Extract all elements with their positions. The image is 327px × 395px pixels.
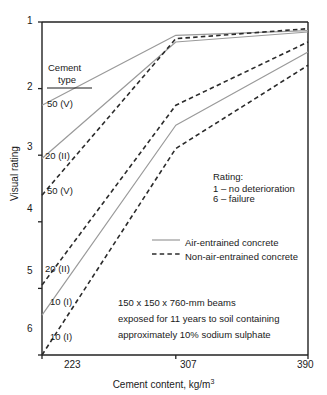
cement-type-heading-line1: Cement	[48, 62, 81, 74]
beam-note-line3: approximately 10% sodium sulphate	[118, 328, 271, 341]
series-label-10i-dashed: 10 (I)	[50, 331, 72, 343]
y-tick-label-4: 4	[27, 203, 33, 214]
y-axis-title: Visual rating	[9, 134, 20, 214]
y-tick-label-2: 2	[27, 81, 33, 92]
x-tick-label-307: 307	[180, 359, 197, 370]
y-tick-label-3: 3	[27, 141, 33, 152]
x-tick-label-390: 390	[297, 359, 314, 370]
legend-label-non-air-entrained: Non-air-entrained concrete	[185, 251, 298, 263]
y-tick-label-1: 1	[27, 15, 33, 26]
x-axis-title: Cement content, kg/m3	[0, 376, 327, 391]
x-tick-label-223: 223	[64, 359, 81, 370]
series-label-50v-dashed: 50 (V)	[47, 185, 73, 197]
beam-note-line1: 150 x 150 x 760-mm beams	[118, 296, 236, 309]
cement-type-heading-line2: type	[58, 74, 76, 86]
legend-label-air-entrained: Air-entrained concrete	[185, 237, 278, 249]
series-label-20ii-dashed: 20 (II)	[45, 263, 70, 275]
series-label-50v-solid: 50 (V)	[47, 98, 73, 110]
y-tick-label-5: 5	[27, 265, 33, 276]
rating-note-line2: 6 – failure	[213, 192, 255, 205]
beam-note-line2: exposed for 11 years to soil containing	[118, 312, 279, 325]
chart-figure: Visual rating Cement content, kg/m3 1 2 …	[0, 0, 327, 395]
y-tick-label-6: 6	[27, 323, 33, 334]
series-label-20ii-solid: 20 (II)	[45, 150, 70, 162]
x-axis-title-base: Cement content, kg/m	[113, 379, 211, 390]
x-axis-title-superscript: 3	[210, 378, 214, 385]
series-label-10i-solid: 10 (I)	[50, 296, 72, 308]
